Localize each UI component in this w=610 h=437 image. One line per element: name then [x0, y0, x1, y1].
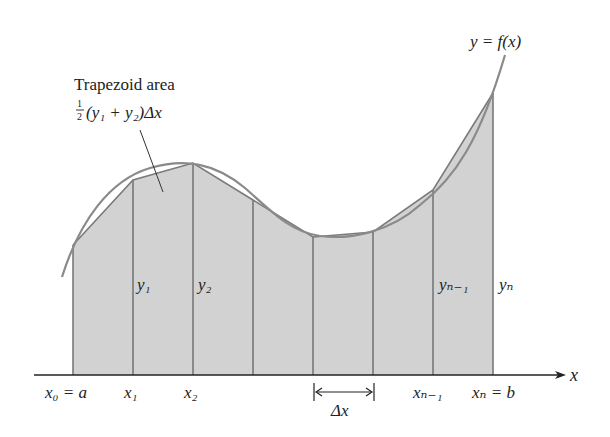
label-xn-1: xₙ₋₁: [412, 383, 442, 402]
trapezoid-region: [73, 93, 493, 375]
label-yn: yₙ: [497, 275, 514, 294]
delta-x-bracket: [314, 383, 374, 401]
fraction-denominator: 2: [77, 111, 82, 122]
annotation-formula: (y₁ + y₂)Δx: [86, 103, 162, 122]
annotation-title: Trapezoid area: [74, 75, 175, 94]
curve-label: y = f(x): [468, 32, 521, 51]
label-y2: y₂: [196, 275, 212, 294]
label-x1: x₁: [123, 383, 137, 402]
label-x2: x₂: [183, 383, 198, 402]
trapezoid-rule-diagram: Trapezoid area 1 2 (y₁ + y₂)Δx y = f(x) …: [0, 0, 610, 437]
label-xn: xₙ = b: [471, 383, 515, 402]
fraction-numerator: 1: [77, 98, 82, 109]
label-x0: x₀ = a: [44, 383, 87, 402]
label-delta-x: Δx: [330, 401, 349, 420]
axis-label-x: x: [569, 365, 578, 385]
label-yn-1: yₙ₋₁: [437, 275, 468, 294]
label-y1: y₁: [135, 275, 150, 294]
